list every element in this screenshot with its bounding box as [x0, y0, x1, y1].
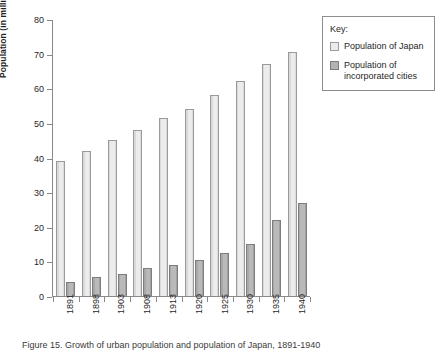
y-axis-title-area: Population (in millions)	[0, 0, 22, 300]
y-axis-tick-mark	[47, 124, 52, 125]
y-axis-tick-label: 40	[34, 154, 44, 164]
y-axis-tick-mark	[47, 159, 52, 160]
x-axis-label-slot: 1920	[183, 302, 204, 342]
y-axis-tick-label: 30	[34, 188, 44, 198]
x-axis-label-slot: 1908	[132, 302, 153, 342]
y-axis-title: Population (in millions)	[0, 0, 8, 78]
bar-group-1891	[56, 20, 75, 296]
y-axis-tick-label: 50	[34, 119, 44, 129]
bar-1903-series-1	[108, 140, 117, 296]
bar-1930-series-1	[236, 81, 245, 296]
legend-item-incorporated-cities: Population of incorporated cities	[330, 60, 428, 82]
bar-1913-series-2	[169, 265, 178, 296]
x-axis-label-1920: 1920	[194, 294, 204, 314]
x-axis-tick-mark	[310, 297, 311, 302]
x-axis-label-1930: 1930	[245, 294, 255, 314]
bar-1930-series-2	[246, 244, 255, 296]
x-axis-label-slot: 1903	[106, 302, 127, 342]
x-axis-label-slot: 1940	[287, 302, 308, 342]
y-axis-tick-label: 20	[34, 223, 44, 233]
bar-group-1908	[133, 20, 152, 296]
bar-group-1913	[159, 20, 178, 296]
y-axis-tick-label: 70	[34, 50, 44, 60]
legend-title: Key:	[330, 24, 428, 34]
bar-group-1903	[108, 20, 127, 296]
y-axis-tick-mark	[47, 20, 52, 21]
x-axis-label-slot: 1913	[158, 302, 179, 342]
bar-1935-series-1	[262, 64, 271, 296]
y-axis-tick-mark	[47, 228, 52, 229]
x-axis-label-slot: 1930	[235, 302, 256, 342]
y-axis-tick-label: 10	[34, 257, 44, 267]
x-axis-label-slot: 1925	[209, 302, 230, 342]
bar-1920-series-1	[185, 109, 194, 296]
x-axis-label-1925: 1925	[220, 294, 230, 314]
bar-1903-series-2	[118, 274, 127, 297]
figure-caption: Figure 15. Growth of urban population an…	[22, 340, 442, 350]
bar-group-1925	[210, 20, 229, 296]
x-axis-label-1898: 1898	[91, 294, 101, 314]
legend-item-population-of-japan: Population of Japan	[330, 41, 428, 52]
x-axis-labels: 1891189819031908191319201925193019351940	[52, 302, 310, 342]
y-axis-tick-mark	[47, 193, 52, 194]
y-axis-tick-mark	[47, 89, 52, 90]
bar-groups	[53, 20, 310, 296]
bar-group-1940	[288, 20, 307, 296]
y-axis-tick-label: 0	[39, 292, 44, 302]
y-axis-tick-label: 60	[34, 84, 44, 94]
bar-1908-series-1	[133, 130, 142, 296]
bar-1891-series-1	[56, 161, 65, 296]
bar-1920-series-2	[195, 260, 204, 296]
legend-label-population-of-japan: Population of Japan	[344, 41, 424, 52]
bar-group-1920	[185, 20, 204, 296]
bar-group-1935	[262, 20, 281, 296]
bar-1913-series-1	[159, 118, 168, 296]
y-axis-tick-mark	[47, 55, 52, 56]
x-axis-label-slot: 1898	[80, 302, 101, 342]
x-axis-label-1935: 1935	[271, 294, 281, 314]
bar-1925-series-2	[220, 253, 229, 296]
x-axis-label-1913: 1913	[168, 294, 178, 314]
x-axis-label-1908: 1908	[142, 294, 152, 314]
legend-label-incorporated-cities: Population of incorporated cities	[344, 60, 428, 82]
bar-1940-series-1	[288, 52, 297, 296]
y-axis-tick-mark	[47, 262, 52, 263]
bar-1908-series-2	[143, 268, 152, 296]
bar-1940-series-2	[298, 203, 307, 296]
y-axis-tick-label: 80	[34, 15, 44, 25]
legend-swatch-icon-dark	[330, 61, 339, 70]
x-axis-label-1891: 1891	[65, 294, 75, 314]
bar-1935-series-2	[272, 220, 281, 296]
bar-group-1930	[236, 20, 255, 296]
x-axis-label-1903: 1903	[116, 294, 126, 314]
legend-swatch-icon-light	[330, 42, 339, 51]
plot-area: 01020304050607080	[52, 20, 310, 297]
x-axis-label-slot: 1891	[54, 302, 75, 342]
bar-1925-series-1	[210, 95, 219, 296]
bar-group-1898	[82, 20, 101, 296]
x-axis-label-slot: 1935	[261, 302, 282, 342]
x-axis-label-1940: 1940	[297, 294, 307, 314]
y-axis-tick-mark	[47, 297, 52, 298]
legend: Key: Population of Japan Population of i…	[322, 16, 435, 91]
bar-1898-series-1	[82, 151, 91, 296]
